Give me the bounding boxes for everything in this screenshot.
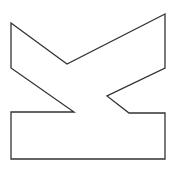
diagram-svg (0, 0, 177, 170)
k-shape-outline (11, 14, 165, 159)
diagram-canvas (0, 0, 177, 170)
